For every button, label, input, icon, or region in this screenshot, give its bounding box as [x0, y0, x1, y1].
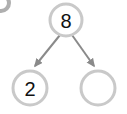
number-bond-diagram: 8 2 — [0, 0, 127, 114]
corner-partial-circle-icon — [0, 0, 9, 11]
node-part-left-label: 2 — [24, 78, 35, 100]
node-part-right[interactable] — [81, 71, 115, 105]
node-part-right-circle — [81, 71, 115, 105]
arrow-root-to-right-part — [72, 35, 94, 66]
node-root-label: 8 — [60, 10, 71, 32]
arrow-root-to-left-part — [35, 35, 60, 66]
node-root-whole[interactable]: 8 — [50, 4, 82, 36]
diagram-canvas: 8 2 — [0, 0, 127, 114]
node-part-left[interactable]: 2 — [13, 71, 47, 105]
